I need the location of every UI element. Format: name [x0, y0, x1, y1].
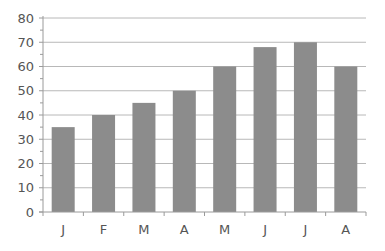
y-tick-label: 10 — [17, 180, 34, 195]
x-tick-label: A — [180, 222, 189, 237]
y-tick-label: 40 — [17, 108, 34, 123]
y-tick-label: 70 — [17, 35, 34, 50]
bars — [52, 42, 358, 212]
gridlines — [43, 18, 366, 188]
y-tick-label: 50 — [17, 83, 34, 98]
x-tick-label: M — [219, 222, 230, 237]
y-tick-label: 20 — [17, 156, 34, 171]
y-tick-label: 80 — [17, 11, 34, 26]
y-axis-minor-ticks — [39, 18, 43, 212]
bar — [132, 103, 155, 212]
x-tick-label: J — [303, 222, 308, 237]
x-tick-label: F — [100, 222, 107, 237]
x-tick-label: J — [60, 222, 65, 237]
bar — [254, 47, 277, 212]
x-tick-label: A — [341, 222, 350, 237]
x-axis-labels: JFMAMJJA — [60, 222, 350, 237]
y-tick-label: 60 — [17, 59, 34, 74]
bar — [52, 127, 75, 212]
x-tick-label: M — [138, 222, 149, 237]
bar — [294, 42, 317, 212]
x-axis-ticks — [43, 212, 366, 216]
bar — [334, 67, 357, 213]
bar-chart: 01020304050607080 JFMAMJJA — [0, 0, 385, 251]
bar — [92, 115, 115, 212]
y-tick-label: 0 — [26, 205, 34, 220]
bar — [173, 91, 196, 212]
bar — [213, 67, 236, 213]
y-axis-labels: 01020304050607080 — [17, 11, 34, 220]
x-tick-label: J — [262, 222, 267, 237]
y-tick-label: 30 — [17, 132, 34, 147]
